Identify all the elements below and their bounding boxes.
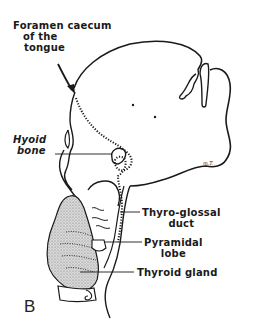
anatomy-diagram: Foramen caecum of the tongue Hyoid bone …: [0, 0, 255, 331]
tongue-dot: [154, 116, 156, 118]
label-hyoid-line2: bone: [13, 145, 46, 156]
pyramidal-lobe: [92, 240, 106, 251]
trachea-back: [104, 186, 124, 268]
panel-letter: B: [24, 297, 35, 317]
label-thyroglossal-line1: Thyro-glossal: [142, 207, 221, 218]
label-hyoid-line1: Hyoid: [13, 134, 46, 145]
tongue-base-curve: [88, 181, 119, 206]
label-thyroglossal-duct: Thyro-glossal duct: [142, 207, 221, 229]
label-thyroid-gland: Thyroid gland: [137, 267, 218, 278]
hyoid-bone: [112, 148, 126, 164]
cartilage-lines: [92, 208, 110, 229]
thyroid-gland: [47, 196, 98, 291]
label-foramen-caecum-line2: of the: [13, 31, 112, 42]
label-hyoid-bone: Hyoid bone: [13, 134, 46, 156]
lip-outline: [180, 70, 199, 99]
label-pyramidal-lobe: Pyramidal lobe: [144, 237, 203, 259]
label-thyroglossal-line2: duct: [142, 218, 221, 229]
epiglottis: [65, 130, 70, 148]
tongue-dot: [132, 104, 134, 106]
snout-outline: [200, 63, 209, 107]
foramen-arrowhead: [67, 84, 75, 94]
label-pyramidal-line1: Pyramidal: [144, 237, 203, 248]
label-pyramidal-line2: lobe: [144, 248, 203, 259]
label-foramen-caecum-line3: tongue: [13, 42, 112, 53]
pharynx-curve: [60, 150, 80, 202]
label-foramen-caecum-line1: Foramen caecum: [13, 20, 112, 31]
label-foramen-caecum: Foramen caecum of the tongue: [13, 20, 112, 53]
face-outline: [130, 69, 230, 186]
artist-signature: m.T.: [203, 160, 214, 166]
